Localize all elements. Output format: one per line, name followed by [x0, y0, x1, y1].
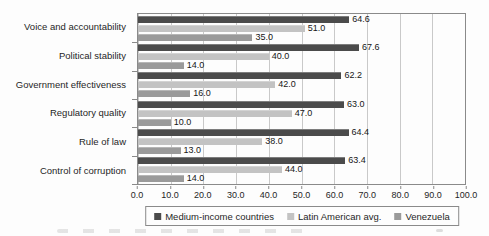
bar [138, 25, 305, 32]
x-tick-label: 50.0 [293, 190, 311, 200]
bar-group: 63.047.010.0 [138, 99, 465, 127]
category-label: Government effectiveness [0, 70, 131, 99]
value-label: 64.6 [352, 15, 370, 24]
bar-group: 67.640.014.0 [138, 42, 465, 70]
bar-row: 38.0 [138, 138, 465, 145]
bar [138, 138, 262, 145]
bar-row: 63.0 [138, 101, 465, 108]
value-label: 64.4 [352, 128, 370, 137]
bar-row: 16.0 [138, 90, 465, 97]
bar-row: 44.0 [138, 166, 465, 173]
legend-swatch [394, 213, 401, 220]
category-label: Control of corruption [0, 156, 131, 185]
scan-artifact [57, 229, 313, 233]
bar [138, 101, 344, 108]
bar [138, 166, 282, 173]
value-label: 62.2 [344, 71, 362, 80]
bar [138, 62, 184, 69]
x-tick-label: 90.0 [424, 190, 442, 200]
bar [138, 53, 269, 60]
legend-label: Venezuela [405, 211, 449, 222]
bar-group: 64.651.035.0 [138, 14, 465, 42]
x-tick-label: 30.0 [227, 190, 245, 200]
bar-group: 64.438.013.0 [138, 127, 465, 155]
bar-row: 13.0 [138, 147, 465, 154]
value-label: 40.0 [272, 52, 290, 61]
legend-item: Medium-income countries [154, 211, 274, 222]
x-tick-label: 0.0 [131, 190, 144, 200]
bar-row: 67.6 [138, 44, 465, 51]
value-label: 51.0 [308, 24, 326, 33]
value-label: 67.6 [362, 43, 380, 52]
bar-row: 63.4 [138, 157, 465, 164]
bar-row: 51.0 [138, 25, 465, 32]
legend-label: Latin American avg. [298, 211, 381, 222]
bar [138, 147, 181, 154]
bar [138, 81, 275, 88]
legend-item: Latin American avg. [287, 211, 381, 222]
x-tick-label: 60.0 [326, 190, 344, 200]
legend-item: Venezuela [394, 211, 449, 222]
x-axis: 0.010.020.030.040.050.060.070.080.090.01… [137, 186, 466, 200]
legend: Medium-income countriesLatin American av… [145, 206, 459, 226]
value-label: 63.4 [348, 156, 366, 165]
value-label: 14.0 [187, 174, 205, 183]
value-label: 63.0 [347, 100, 365, 109]
bar-row: 64.4 [138, 129, 465, 136]
bar [138, 44, 359, 51]
value-label: 38.0 [265, 137, 283, 146]
bar-row: 64.6 [138, 16, 465, 23]
bar-row: 14.0 [138, 62, 465, 69]
bar [138, 157, 345, 164]
bar [138, 16, 349, 23]
bar [138, 34, 252, 41]
bar-row: 62.2 [138, 72, 465, 79]
plot-area: 64.651.035.067.640.014.062.242.016.063.0… [137, 13, 466, 185]
bar [138, 72, 341, 79]
bar-row: 47.0 [138, 110, 465, 117]
bar [138, 175, 184, 182]
x-tick-label: 40.0 [260, 190, 278, 200]
legend-label: Medium-income countries [165, 211, 274, 222]
value-label: 13.0 [184, 146, 202, 155]
x-tick-label: 100.0 [455, 190, 478, 200]
category-label: Political stability [0, 42, 131, 71]
value-label: 10.0 [174, 118, 192, 127]
bar [138, 119, 171, 126]
bar-row: 10.0 [138, 119, 465, 126]
category-label: Voice and accountability [0, 13, 131, 42]
category-label: Regulatory quality [0, 99, 131, 128]
scan-artifact-dot [436, 229, 443, 232]
bar-row: 40.0 [138, 53, 465, 60]
category-label: Rule of law [0, 128, 131, 157]
value-label: 44.0 [285, 165, 303, 174]
value-label: 42.0 [278, 80, 296, 89]
value-label: 14.0 [187, 61, 205, 70]
value-label: 35.0 [255, 33, 273, 42]
bar [138, 110, 292, 117]
bar-row: 42.0 [138, 81, 465, 88]
bar [138, 90, 190, 97]
legend-swatch [287, 213, 294, 220]
x-tick-label: 20.0 [194, 190, 212, 200]
x-tick-label: 10.0 [161, 190, 179, 200]
bar-group: 63.444.014.0 [138, 156, 465, 184]
x-tick-label: 70.0 [359, 190, 377, 200]
value-label: 47.0 [295, 109, 313, 118]
bar [138, 129, 349, 136]
bar-row: 35.0 [138, 34, 465, 41]
bar-row: 14.0 [138, 175, 465, 182]
category-axis: Voice and accountabilityPolitical stabil… [0, 13, 131, 185]
bar-chart: Voice and accountabilityPolitical stabil… [0, 0, 489, 236]
x-tick-label: 80.0 [391, 190, 409, 200]
value-label: 16.0 [193, 89, 211, 98]
legend-swatch [154, 213, 161, 220]
bar-group: 62.242.016.0 [138, 71, 465, 99]
